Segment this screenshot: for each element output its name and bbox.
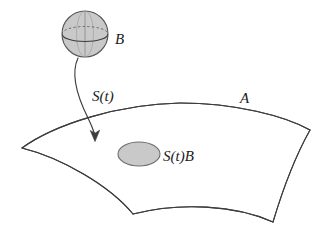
figure-canvas: B S(t) S(t)B A	[0, 0, 328, 231]
ball-sphere-group	[62, 11, 108, 57]
operator-label: S(t)	[92, 88, 114, 105]
diagram-svg: B S(t) S(t)B A	[0, 0, 328, 231]
ball-label: B	[115, 31, 124, 47]
attractor-label: A	[239, 90, 250, 106]
image-set-label: S(t)B	[163, 148, 194, 165]
image-set-ellipse	[118, 142, 160, 166]
